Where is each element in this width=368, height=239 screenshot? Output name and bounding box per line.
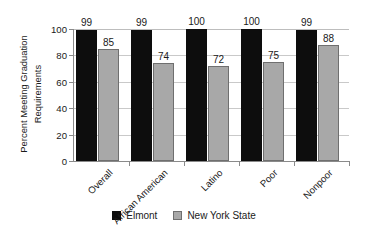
- x-axis-category-label: Overall: [85, 167, 114, 196]
- x-axis-tick: [129, 161, 130, 166]
- y-axis-tick: [69, 82, 74, 83]
- bar-new-york-state: 88: [318, 45, 339, 161]
- y-axis-tick-label: 0: [62, 156, 67, 167]
- legend-label-new-york-state: New York State: [187, 210, 255, 221]
- y-axis-tick: [69, 29, 74, 30]
- bar-value-label: 99: [81, 17, 92, 28]
- x-axis-tick: [239, 161, 240, 166]
- y-axis-title: Percent Meeting Graduation Requirements: [14, 24, 48, 164]
- y-axis-tick: [69, 108, 74, 109]
- y-axis-tick-label: 100: [51, 24, 67, 35]
- y-axis-tick: [69, 135, 74, 136]
- y-axis-title-line1: Percent Meeting Graduation: [17, 35, 31, 152]
- y-axis-tick-label: 20: [56, 129, 67, 140]
- bar-value-label: 72: [213, 54, 224, 65]
- bar-new-york-state: 74: [153, 63, 174, 161]
- bar-group: 9985: [76, 29, 119, 161]
- bar-value-label: 100: [188, 16, 205, 27]
- x-axis-tick: [294, 161, 295, 166]
- bar-group: 9988: [296, 29, 339, 161]
- plot-area: 0204060801009985997410072100759988: [73, 29, 349, 162]
- bar-group: 10075: [241, 29, 284, 161]
- gray-square-swatch-icon: [173, 211, 182, 220]
- x-axis-category-label: Latino: [198, 167, 224, 193]
- bar-value-label: 75: [268, 50, 279, 61]
- bar-group: 9974: [131, 29, 174, 161]
- bar-group: 10072: [186, 29, 229, 161]
- bar-new-york-state: 72: [208, 66, 229, 161]
- bar-value-label: 99: [136, 17, 147, 28]
- bar-elmont: 100: [241, 29, 262, 161]
- bar-new-york-state: 85: [98, 49, 119, 161]
- bar-value-label: 88: [323, 33, 334, 44]
- chart-legend: Elmont New York State: [0, 210, 368, 221]
- y-axis-title-line2: Requirements: [31, 35, 45, 152]
- x-axis-tick: [349, 161, 350, 166]
- bar-value-label: 74: [158, 51, 169, 62]
- bar-chart: Percent Meeting Graduation Requirements …: [0, 0, 368, 239]
- bar-value-label: 85: [103, 37, 114, 48]
- y-axis-tick-label: 60: [56, 76, 67, 87]
- bar-value-label: 100: [243, 16, 260, 27]
- y-axis-tick: [69, 55, 74, 56]
- y-axis-tick-label: 80: [56, 50, 67, 61]
- bar-value-label: 99: [301, 17, 312, 28]
- bar-elmont: 100: [186, 29, 207, 161]
- x-axis-tick: [184, 161, 185, 166]
- y-axis-tick-label: 40: [56, 103, 67, 114]
- bar-elmont: 99: [131, 30, 152, 161]
- legend-item-new-york-state: New York State: [173, 210, 255, 221]
- y-axis-tick: [69, 161, 74, 162]
- x-axis-category-label: Nonpoor: [300, 167, 334, 201]
- bar-elmont: 99: [296, 30, 317, 161]
- bar-elmont: 99: [76, 30, 97, 161]
- bar-new-york-state: 75: [263, 62, 284, 161]
- x-axis-category-label: Poor: [257, 167, 279, 189]
